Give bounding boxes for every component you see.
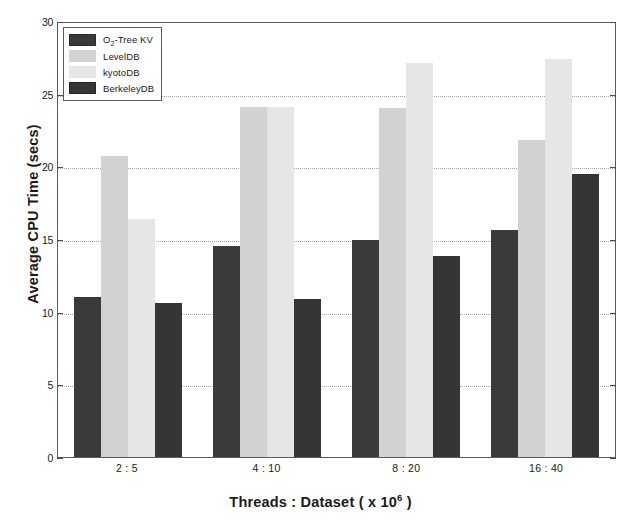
bar-group	[213, 23, 321, 457]
legend-swatch	[69, 66, 96, 78]
y-axis-tick-label: 30	[27, 16, 53, 28]
bar	[491, 230, 518, 457]
bar-group	[491, 23, 599, 457]
bar	[294, 299, 321, 457]
y-axis-tick-label: 10	[27, 307, 53, 319]
x-axis-tick-label: 2 : 5	[67, 462, 187, 474]
bar	[352, 240, 379, 457]
legend-item: O2-Tree KV	[69, 32, 154, 48]
legend-swatch	[69, 50, 96, 62]
y-axis-tick-label: 25	[27, 89, 53, 101]
x-axis-title: Threads : Dataset ( x 106 )	[0, 492, 641, 510]
y-axis-tick-mark-right	[610, 22, 616, 23]
bar	[74, 297, 101, 457]
y-axis-tick-label: 15	[27, 234, 53, 246]
y-axis-tick-mark-right	[610, 240, 616, 241]
legend-label: BerkeleyDB	[103, 83, 154, 94]
x-axis-title-main: Threads : Dataset ( x 10	[229, 494, 397, 510]
x-axis-tick-label: 4 : 10	[207, 462, 327, 474]
y-axis-tick-mark	[57, 458, 63, 459]
legend-swatch	[69, 82, 96, 94]
y-axis-tick-mark-right	[610, 385, 616, 386]
y-axis-tick-label: 20	[27, 161, 53, 173]
y-axis-tick-mark-right	[610, 95, 616, 96]
y-axis-tick-labels: 051015202530	[22, 22, 53, 458]
legend-label: O2-Tree KV	[103, 34, 153, 47]
bar	[101, 156, 128, 457]
bar	[240, 107, 267, 457]
bar	[379, 108, 406, 457]
bar	[518, 140, 545, 457]
bar-chart: Average CPU Time (secs) 051015202530 O2-…	[0, 0, 641, 532]
y-axis-tick-label: 0	[27, 452, 53, 464]
bar	[155, 303, 182, 457]
bar	[213, 246, 240, 457]
y-axis-tick-mark	[57, 240, 63, 241]
legend-swatch	[69, 34, 96, 46]
legend-label: LevelDB	[103, 51, 140, 62]
y-axis-tick-mark-right	[610, 313, 616, 314]
bar	[545, 59, 572, 457]
legend: O2-Tree KVLevelDBkyotoDBBerkeleyDB	[63, 27, 162, 101]
legend-item: kyotoDB	[69, 64, 154, 80]
legend-item: LevelDB	[69, 48, 154, 64]
x-axis-tick-label: 8 : 20	[346, 462, 466, 474]
y-axis-tick-mark	[57, 313, 63, 314]
bar	[267, 107, 294, 457]
x-axis-tick-label: 16 : 40	[486, 462, 606, 474]
x-axis-title-tail: )	[402, 494, 411, 510]
y-axis-tick-mark-right	[610, 458, 616, 459]
y-axis-tick-mark	[57, 385, 63, 386]
legend-item: BerkeleyDB	[69, 80, 154, 96]
bar	[128, 219, 155, 457]
y-axis-tick-mark	[57, 22, 63, 23]
bar	[406, 63, 433, 457]
y-axis-tick-mark-right	[610, 167, 616, 168]
bar	[433, 256, 460, 457]
legend-label: kyotoDB	[103, 67, 140, 78]
y-axis-tick-mark	[57, 167, 63, 168]
bar-group	[352, 23, 460, 457]
y-axis-tick-label: 5	[27, 379, 53, 391]
x-axis-tick-labels: 2 : 54 : 108 : 2016 : 40	[57, 462, 616, 474]
bar	[572, 174, 599, 457]
